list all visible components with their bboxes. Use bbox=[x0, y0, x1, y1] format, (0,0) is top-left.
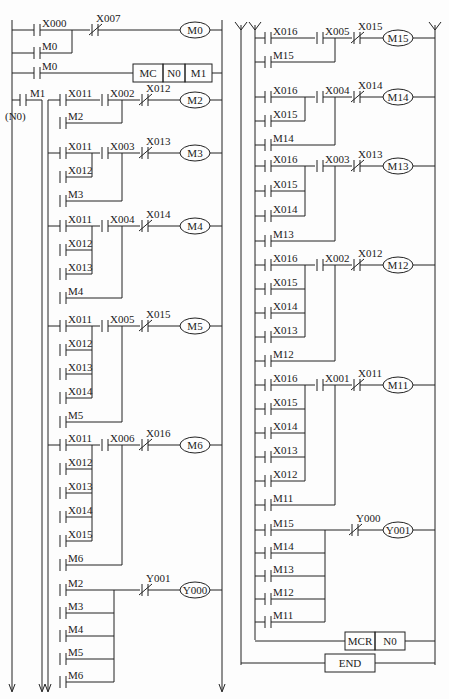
contact-nc: X014 bbox=[351, 79, 383, 103]
output-coil: M11 bbox=[383, 377, 413, 393]
contact-label: X005 bbox=[325, 25, 350, 37]
coil-label: M5 bbox=[187, 320, 203, 332]
contact-label: X012 bbox=[358, 247, 382, 259]
contact-nc: X015 bbox=[139, 308, 171, 332]
contact-label: Y001 bbox=[146, 572, 170, 584]
contact-label: M5 bbox=[68, 646, 84, 658]
contact-no: M3 bbox=[60, 600, 84, 619]
ladder-diagram: X000X007M0M0M0MCN0M1M1(N0)X011X002X012M2… bbox=[0, 0, 449, 699]
contact-nc: Y000 bbox=[349, 512, 381, 536]
contact-no: M13 bbox=[265, 563, 294, 582]
instruction-label: MC bbox=[139, 67, 156, 79]
contact-label: X015 bbox=[273, 178, 298, 190]
contact-no: X013 bbox=[60, 361, 93, 380]
contact-label: X002 bbox=[325, 252, 349, 264]
contact-label: M0 bbox=[42, 40, 58, 52]
contact-no: M11 bbox=[265, 492, 293, 511]
contact-label: X011 bbox=[68, 313, 92, 325]
contact-no: M14 bbox=[265, 540, 294, 559]
contact-no: X015 bbox=[60, 528, 93, 547]
contact-no: X015 bbox=[265, 396, 298, 415]
contact-label: M4 bbox=[68, 623, 84, 635]
coil-label: M14 bbox=[388, 91, 409, 103]
contact-label: M2 bbox=[68, 577, 83, 589]
contact-label: M0 bbox=[42, 60, 58, 72]
contact-nc: X013 bbox=[351, 148, 383, 172]
contact-nc: X016 bbox=[139, 427, 171, 451]
contact-no: X012 bbox=[60, 456, 92, 475]
contact-no: X004 bbox=[317, 84, 350, 103]
contact-nc: X012 bbox=[351, 247, 382, 271]
contact-no: M5 bbox=[60, 409, 84, 428]
contact-no: X014 bbox=[60, 504, 93, 523]
contact-no: X013 bbox=[60, 480, 93, 499]
contact-label: M12 bbox=[273, 586, 294, 598]
contact-no: X011 bbox=[60, 432, 92, 451]
output-coil: M13 bbox=[383, 158, 413, 174]
contact-no: M2 bbox=[60, 110, 83, 129]
contact-no: X011 bbox=[60, 213, 92, 232]
contact-label: X012 bbox=[68, 164, 92, 176]
coil-label: M2 bbox=[187, 94, 202, 106]
output-coil: M0 bbox=[180, 22, 210, 38]
output-coil: M6 bbox=[180, 437, 210, 453]
contact-label: X012 bbox=[146, 82, 170, 94]
contact-label: Y000 bbox=[356, 512, 381, 524]
contact-no: X015 bbox=[265, 276, 298, 295]
contact-label: X012 bbox=[68, 456, 92, 468]
contact-label: X016 bbox=[273, 25, 298, 37]
contact-nc: X012 bbox=[139, 82, 170, 106]
contact-label: X016 bbox=[146, 427, 171, 439]
contact-no: M6 bbox=[60, 669, 84, 688]
output-coil: Y000 bbox=[180, 582, 210, 598]
contact-no: X012 bbox=[60, 237, 92, 256]
contact-no: X004 bbox=[102, 213, 135, 232]
contact-label: X014 bbox=[273, 420, 298, 432]
contact-no: X005 bbox=[102, 313, 135, 332]
instruction-box: MCN0M1 bbox=[133, 64, 212, 82]
coil-label: Y000 bbox=[183, 584, 208, 596]
contact-label: X015 bbox=[68, 528, 93, 540]
contact-label: M15 bbox=[273, 49, 294, 61]
contact-no: X000 bbox=[34, 17, 67, 36]
contact-label: M15 bbox=[273, 517, 294, 529]
contact-label: X014 bbox=[358, 79, 383, 91]
contact-label: X005 bbox=[110, 313, 135, 325]
output-coil: Y001 bbox=[383, 522, 413, 538]
contact-no: M11 bbox=[265, 609, 293, 628]
contact-no: X015 bbox=[265, 108, 298, 127]
contact-label: X013 bbox=[358, 148, 383, 160]
instruction-label: END bbox=[339, 657, 362, 669]
contact-no: X016 bbox=[265, 25, 298, 44]
contact-label: M5 bbox=[68, 409, 84, 421]
contact-label: M11 bbox=[273, 492, 293, 504]
coil-label: Y001 bbox=[386, 524, 410, 536]
contact-label: M3 bbox=[68, 188, 84, 200]
contact-label: X015 bbox=[273, 396, 298, 408]
contact-no: M5 bbox=[60, 646, 84, 665]
contact-no: X013 bbox=[265, 444, 298, 463]
contact-label: M6 bbox=[68, 669, 84, 681]
contact-nc: X011 bbox=[351, 367, 382, 391]
contact-label: X006 bbox=[110, 432, 135, 444]
instruction-label: N0 bbox=[167, 67, 181, 79]
contact-label: X011 bbox=[68, 87, 92, 99]
contact-label: X014 bbox=[68, 504, 93, 516]
contact-label: X013 bbox=[273, 444, 298, 456]
coil-label: M11 bbox=[388, 379, 408, 391]
contact-label: X011 bbox=[68, 140, 92, 152]
contact-no: M2 bbox=[60, 577, 83, 596]
instruction-label: N0 bbox=[383, 635, 397, 647]
contact-nc: X014 bbox=[139, 208, 171, 232]
ladder-svg: X000X007M0M0M0MCN0M1M1(N0)X011X002X012M2… bbox=[0, 0, 449, 699]
output-coil: M3 bbox=[180, 145, 210, 161]
contact-no: X003 bbox=[102, 140, 135, 159]
contact-no: X012 bbox=[265, 468, 297, 487]
contact-no: X016 bbox=[265, 252, 298, 271]
contact-label: X014 bbox=[273, 300, 298, 312]
contact-nc: X015 bbox=[351, 20, 383, 44]
contact-no: X011 bbox=[60, 313, 92, 332]
output-coil: M4 bbox=[180, 218, 210, 234]
contact-label: X014 bbox=[68, 385, 93, 397]
contact-label: M4 bbox=[68, 285, 84, 297]
